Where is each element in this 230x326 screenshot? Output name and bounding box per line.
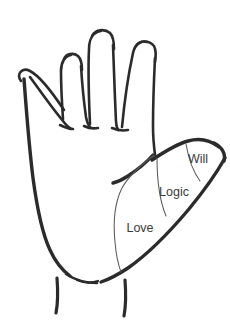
thumb-outer-edge <box>152 140 219 160</box>
ring-finger-tip <box>64 54 82 70</box>
wrist-left-mark <box>56 278 58 313</box>
wrist-right-mark <box>124 280 126 316</box>
zone-label-logic: Logic <box>159 185 189 199</box>
zone-label-will: Will <box>188 152 208 166</box>
middle-finger-tip <box>92 30 114 49</box>
thumb-lower-edge <box>101 158 225 282</box>
index-finger-left-edge <box>122 41 147 127</box>
hand-outline-group <box>19 30 225 316</box>
palm-zones-diagram: Will Logic Love <box>0 0 230 326</box>
index-finger-right-edge <box>153 58 155 155</box>
zone-label-love: Love <box>126 221 153 235</box>
middle-finger-right-edge <box>113 45 118 130</box>
pinky-inner-edge <box>30 77 70 128</box>
divider-love-outer <box>114 155 154 272</box>
index-finger-tip <box>136 42 156 63</box>
hand-diagram-canvas: Will Logic Love <box>0 0 230 326</box>
middle-index-valley <box>112 128 128 130</box>
ring-finger-left-edge <box>61 55 71 119</box>
thumb-root-crease <box>113 155 153 183</box>
zone-label-group: Will Logic Love <box>126 152 208 235</box>
middle-finger-left-edge <box>89 31 101 124</box>
